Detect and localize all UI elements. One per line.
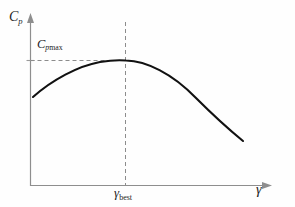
figure-container: Cp Cpmax γbest γ	[0, 0, 295, 207]
y-axis-symbol: C	[9, 9, 18, 24]
x-axis-label: γ	[256, 183, 262, 197]
gamma-best-subscript: best	[119, 193, 132, 202]
cp-max-label: Cpmax	[37, 38, 63, 51]
power-coefficient-curve	[33, 60, 243, 141]
cp-max-suffix: max	[49, 43, 62, 52]
y-axis-label: Cp	[9, 10, 23, 24]
x-axis-arrowhead	[262, 182, 272, 189]
x-axis-symbol: γ	[256, 182, 262, 197]
y-axis-subscript: p	[18, 16, 22, 26]
y-axis-arrowhead	[27, 13, 34, 23]
plot-area	[0, 0, 295, 207]
gamma-best-label: γbest	[114, 186, 132, 199]
